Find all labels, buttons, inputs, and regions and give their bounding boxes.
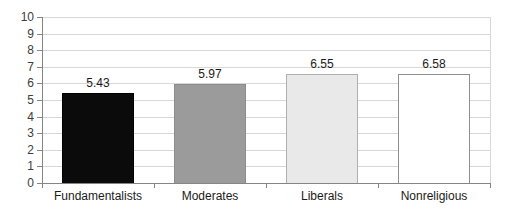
- x-tick: [266, 183, 267, 188]
- bar-nonreligious: [398, 74, 470, 183]
- y-tick-label: 4: [0, 110, 34, 124]
- gridline: [42, 50, 490, 51]
- y-tick-label: 6: [0, 76, 34, 90]
- y-tick: [37, 100, 42, 101]
- x-tick: [42, 183, 43, 188]
- bar-value-label: 5.43: [58, 76, 138, 90]
- y-tick-label: 2: [0, 143, 34, 157]
- x-tick: [490, 183, 491, 188]
- y-tick: [37, 133, 42, 134]
- y-tick: [37, 117, 42, 118]
- category-label: Nonreligious: [378, 189, 490, 203]
- plot-right-border: [490, 17, 491, 183]
- y-tick-label: 5: [0, 93, 34, 107]
- category-label: Moderates: [154, 189, 266, 203]
- y-tick: [37, 67, 42, 68]
- bar-liberals: [286, 74, 358, 183]
- y-tick-label: 3: [0, 126, 34, 140]
- bar-chart: 0123456789105.43Fundamentalists5.97Moder…: [0, 0, 513, 209]
- y-axis-line: [42, 17, 43, 183]
- x-tick: [378, 183, 379, 188]
- y-tick: [37, 50, 42, 51]
- bar-value-label: 5.97: [170, 67, 250, 81]
- y-tick: [37, 17, 42, 18]
- y-tick-label: 10: [0, 10, 34, 24]
- y-tick: [37, 34, 42, 35]
- gridline: [42, 34, 490, 35]
- gridline: [42, 17, 490, 18]
- y-tick-label: 1: [0, 159, 34, 173]
- bar-fundamentalists: [62, 93, 134, 183]
- bar-value-label: 6.55: [282, 57, 362, 71]
- y-tick-label: 9: [0, 27, 34, 41]
- y-tick-label: 8: [0, 43, 34, 57]
- y-tick-label: 7: [0, 60, 34, 74]
- category-label: Fundamentalists: [42, 189, 154, 203]
- y-tick: [37, 83, 42, 84]
- y-tick: [37, 150, 42, 151]
- x-tick: [154, 183, 155, 188]
- y-tick-label: 0: [0, 176, 34, 190]
- bar-moderates: [174, 84, 246, 183]
- bar-value-label: 6.58: [394, 57, 474, 71]
- category-label: Liberals: [266, 189, 378, 203]
- y-tick: [37, 166, 42, 167]
